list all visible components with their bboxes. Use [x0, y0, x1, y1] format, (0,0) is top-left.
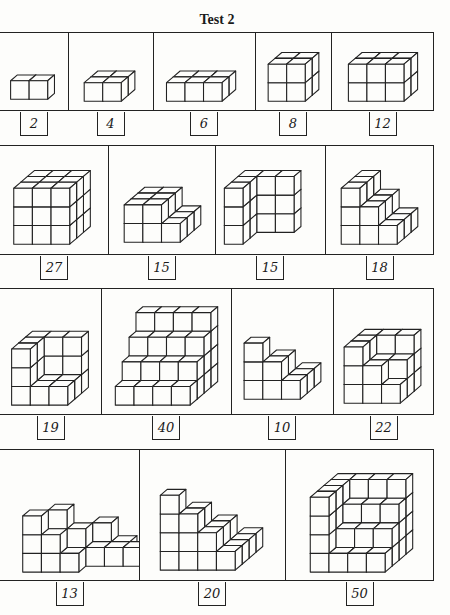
- cube-stack-drawing: [256, 33, 331, 110]
- cube-stack-drawing: [140, 450, 285, 580]
- cube-figure-panel: [255, 33, 331, 110]
- cube-stack-drawing: [0, 33, 68, 110]
- figure-row-2: [0, 145, 434, 255]
- cube-stack-drawing: [286, 450, 434, 580]
- cube-count-label: 8: [279, 112, 307, 136]
- cube-figure-panel: [153, 33, 255, 110]
- cube-figure-panel: [0, 289, 101, 414]
- cube-stack-drawing: [326, 146, 434, 254]
- cube-count-label: 12: [369, 112, 397, 136]
- cube-count-label: 18: [366, 256, 394, 280]
- figure-row-1: [0, 32, 434, 111]
- cube-count-label: 15: [148, 256, 176, 280]
- page-title: Test 2: [0, 12, 434, 28]
- cube-count-label: 22: [370, 416, 398, 440]
- cube-stack-drawing: [332, 33, 434, 110]
- cube-figure-panel: [139, 450, 285, 580]
- cube-count-label: 50: [346, 582, 374, 606]
- cube-stack-drawing: [102, 289, 231, 414]
- cube-count-label: 15: [256, 256, 284, 280]
- cube-figure-panel: [68, 33, 153, 110]
- figure-row-4: [0, 449, 434, 581]
- cube-stack-drawing: [0, 289, 101, 414]
- cube-count-label: 19: [37, 416, 65, 440]
- cube-stack-drawing: [0, 450, 139, 580]
- cube-figure-panel: [215, 146, 325, 254]
- cube-stack-drawing: [232, 289, 333, 414]
- cube-stack-drawing: [334, 289, 434, 414]
- cube-figure-panel: [0, 146, 108, 254]
- cube-count-label: 27: [40, 256, 68, 280]
- figure-row-3: [0, 288, 434, 415]
- cube-stack-drawing: [109, 146, 215, 254]
- cube-stack-drawing: [216, 146, 325, 254]
- cube-figure-panel: [333, 289, 434, 414]
- cube-count-label: 4: [97, 112, 125, 136]
- cube-count-label: 10: [268, 416, 296, 440]
- cube-figure-panel: [101, 289, 231, 414]
- cube-count-label: 20: [198, 582, 226, 606]
- cube-count-label: 2: [20, 112, 48, 136]
- cube-stack-drawing: [69, 33, 153, 110]
- cube-figure-panel: [0, 33, 68, 110]
- cube-figure-panel: [331, 33, 434, 110]
- cube-count-label: 13: [56, 582, 84, 606]
- cube-figure-panel: [325, 146, 434, 254]
- cube-count-label: 40: [152, 416, 180, 440]
- cube-figure-panel: [0, 450, 139, 580]
- cube-figure-panel: [285, 450, 434, 580]
- cube-stack-drawing: [154, 33, 255, 110]
- cube-figure-panel: [108, 146, 215, 254]
- cube-stack-drawing: [0, 146, 108, 254]
- cube-figure-panel: [231, 289, 333, 414]
- cube-count-label: 6: [190, 112, 218, 136]
